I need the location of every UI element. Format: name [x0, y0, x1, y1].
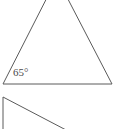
base-angle-label: 65°: [13, 67, 28, 78]
triangle-right-side: [57, 0, 112, 84]
partial-shape: [3, 97, 68, 129]
figure-svg: [0, 0, 127, 129]
partial-shape-diagonal-side: [3, 97, 68, 129]
triangle-left-side: [3, 0, 57, 84]
geometry-figure: 65°: [0, 0, 127, 129]
